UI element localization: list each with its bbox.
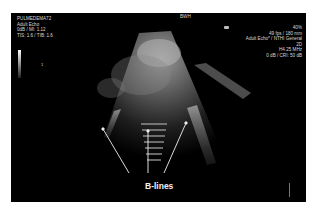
patient-id: PULMEDEMA72 bbox=[17, 16, 53, 22]
patient-info-overlay: PULMEDEMA72 Adult Echo 0dB / MI: 1.12 TI… bbox=[17, 16, 53, 38]
probe-orientation-marker-icon bbox=[224, 26, 229, 29]
grayscale-bar bbox=[18, 50, 21, 78]
gain-compression: 0 dB / CRI: 50 dB bbox=[246, 53, 302, 59]
depth-marker: 1 bbox=[41, 62, 43, 68]
institution-label: BWH bbox=[180, 14, 191, 20]
ultrasound-screen: PULMEDEMA72 Adult Echo 0dB / MI: 1.12 TI… bbox=[11, 13, 306, 202]
b-lines-annotation-label: B-lines bbox=[145, 181, 173, 191]
thermal-index: TIS: 1.6 / TIB: 1.6 bbox=[17, 33, 53, 39]
imaging-parameters-overlay: 40% 49 fps / 180 mm Adult Echo* / NTHI G… bbox=[246, 25, 302, 59]
depth-scale-tick bbox=[289, 183, 290, 197]
preset-mode: Adult Echo* / NTHI General bbox=[246, 36, 302, 42]
